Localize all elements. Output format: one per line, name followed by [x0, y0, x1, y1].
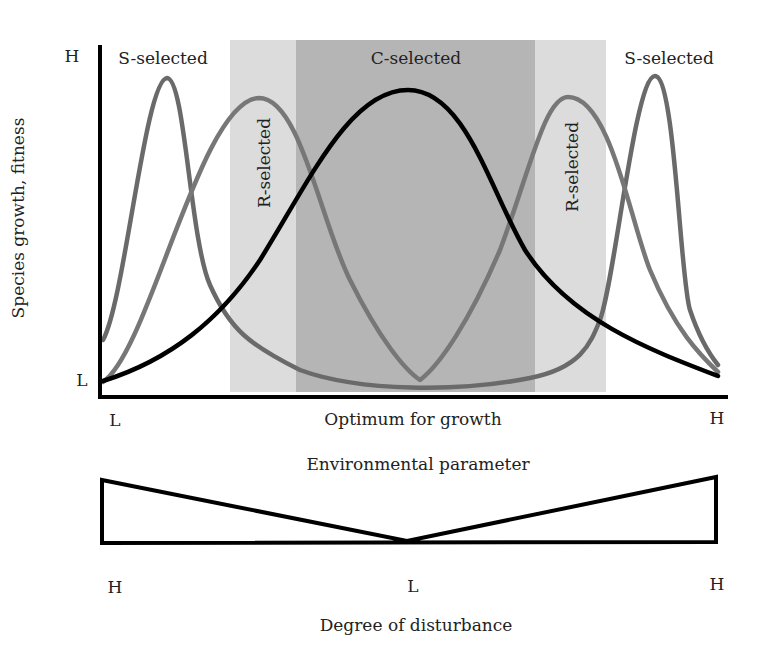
x-axis-label: Optimum for growth	[324, 409, 501, 429]
environmental-parameter-label: Environmental parameter	[306, 454, 530, 474]
x-high-label: H	[710, 408, 725, 428]
disturbance-low-mid-label: L	[407, 576, 418, 596]
s-selected-right-label: S-selected	[624, 48, 714, 68]
r-selected-left-label: R-selected	[254, 118, 274, 208]
disturbance-triangles	[102, 477, 716, 543]
y-high-label: H	[65, 46, 80, 66]
y-low-label: L	[76, 370, 87, 390]
y-axis-label: Species growth, fitness	[8, 118, 28, 319]
x-low-label: L	[109, 410, 120, 430]
disturbance-axis-label: Degree of disturbance	[320, 615, 513, 635]
disturbance-high-right-label: H	[710, 574, 725, 594]
ecological-strategy-diagram: H L Species growth, fitness L Optimum fo…	[0, 0, 767, 662]
disturbance-high-left-label: H	[108, 577, 123, 597]
r-selected-right-label: R-selected	[562, 122, 582, 212]
band-r-right	[535, 40, 606, 392]
s-selected-left-label: S-selected	[118, 48, 208, 68]
c-selected-label: C-selected	[371, 48, 461, 68]
